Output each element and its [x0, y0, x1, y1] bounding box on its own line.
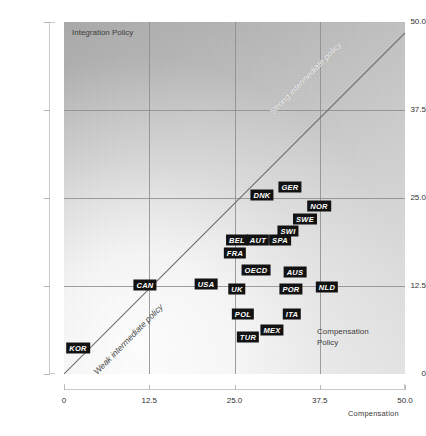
data-point-swe: SWE: [293, 214, 317, 225]
x-tick-mark: [64, 385, 65, 390]
y-tick-mark: [44, 22, 50, 23]
data-point-usa: USA: [195, 279, 218, 290]
data-point-mex: MEX: [260, 325, 283, 336]
data-point-can: CAN: [133, 280, 156, 291]
data-point-pol: POL: [232, 309, 254, 320]
data-point-ger: GER: [278, 182, 301, 193]
y-tick-mark: [44, 110, 50, 111]
y-tick-mark: [44, 286, 50, 287]
data-point-swi: SWI: [277, 226, 298, 237]
y-tick-mark: [44, 198, 50, 199]
data-point-bel: BEL: [226, 235, 248, 246]
data-point-nor: NOR: [307, 201, 331, 212]
x-tick-label: 37.5: [312, 396, 328, 405]
data-point-aut: AUT: [247, 235, 269, 246]
integration-policy-note: Integration Policy: [72, 28, 133, 39]
x-axis-title: Compensation: [348, 409, 399, 418]
x-tick-label: 25.0: [227, 396, 243, 405]
data-point-kor: KOR: [66, 343, 90, 354]
data-point-por: POR: [279, 284, 302, 295]
data-point-nld: NLD: [316, 282, 338, 293]
compensation-policy-note: Compensation Policy: [317, 327, 369, 348]
x-tick-label: 12.5: [141, 396, 157, 405]
x-tick-mark: [405, 385, 406, 390]
x-tick-mark: [235, 385, 236, 390]
plot-area: Integration Policy Compensation Policy S…: [64, 22, 405, 374]
x-tick-mark: [149, 385, 150, 390]
x-tick-label: 0: [62, 396, 66, 405]
x-tick-label: 50.0: [397, 396, 413, 405]
y-tick-mark: [44, 374, 50, 375]
data-point-ita: ITA: [283, 309, 301, 320]
data-point-fra: FRA: [224, 248, 246, 259]
x-tick-mark: [320, 385, 321, 390]
gridline-horizontal: [64, 198, 405, 199]
data-point-dnk: DNK: [250, 190, 273, 201]
data-point-uk: UK: [228, 284, 245, 295]
data-point-aus: AUS: [284, 267, 307, 278]
chart-figure: Integration 012.525.037.550.0 Compensati…: [0, 0, 426, 436]
data-point-oecd: OECD: [242, 265, 271, 276]
data-point-tur: TUR: [237, 332, 259, 343]
gridline-horizontal: [64, 110, 405, 111]
